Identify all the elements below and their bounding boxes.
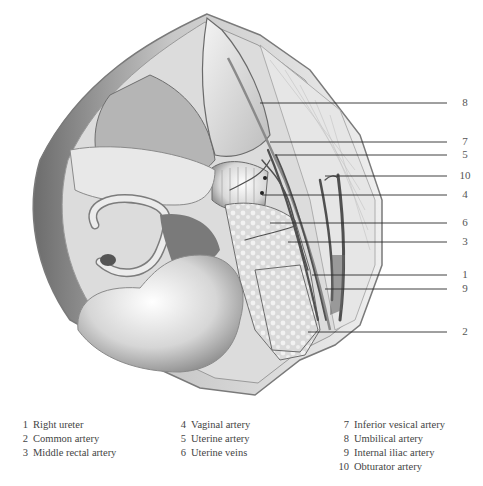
- callout-number: 7: [455, 135, 475, 147]
- legend: 1Right ureter 2Common artery 3Middle rec…: [0, 418, 483, 486]
- legend-item: 5Uterine artery: [172, 432, 250, 446]
- legend-item: 7Inferior vesical artery: [335, 418, 445, 432]
- legend-item: 9Internal iliac artery: [335, 446, 445, 460]
- legend-item: 3Middle rectal artery: [14, 446, 116, 460]
- callout-number: 6: [455, 216, 475, 228]
- callout-number: 3: [455, 235, 475, 247]
- legend-item: 1Right ureter: [14, 418, 116, 432]
- legend-item: 8Umbilical artery: [335, 432, 445, 446]
- legend-item: 4Vaginal artery: [172, 418, 250, 432]
- callout-number: 8: [455, 96, 475, 108]
- callout-number: 9: [455, 282, 475, 294]
- callout-number: 4: [455, 188, 475, 200]
- legend-item: 6Uterine veins: [172, 446, 250, 460]
- anatomical-illustration: 87510463192: [0, 0, 483, 400]
- callout-number: 10: [455, 169, 475, 181]
- legend-item: 2Common artery: [14, 432, 116, 446]
- legend-column-3: 7Inferior vesical artery 8Umbilical arte…: [335, 418, 445, 474]
- callout-number: 5: [455, 148, 475, 160]
- legend-item: 10Obturator artery: [335, 460, 445, 474]
- callout-number: 1: [455, 268, 475, 280]
- legend-column-1: 1Right ureter 2Common artery 3Middle rec…: [14, 418, 116, 460]
- legend-column-2: 4Vaginal artery 5Uterine artery 6Uterine…: [172, 418, 250, 460]
- callout-number: 2: [455, 325, 475, 337]
- pelvic-dissection-drawing: [0, 0, 483, 400]
